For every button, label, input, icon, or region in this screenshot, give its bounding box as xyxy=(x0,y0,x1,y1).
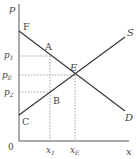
supply-demand-diagram: p x 0 D S F A E B C p1 pE p2 x1 xE xyxy=(0,0,137,159)
supply-label: S xyxy=(127,27,134,38)
origin-label: 0 xyxy=(8,142,14,152)
y-axis-label: p xyxy=(9,3,16,14)
point-c-label: C xyxy=(22,116,29,127)
supply-curve xyxy=(19,37,125,115)
price-pe-label: pE xyxy=(2,70,13,81)
point-f-label: F xyxy=(23,21,30,32)
price-p2-label: p2 xyxy=(4,87,14,98)
point-e-label: E xyxy=(69,62,78,73)
point-a-label: A xyxy=(44,41,52,52)
demand-label: D xyxy=(124,112,133,123)
guide-lines xyxy=(19,56,75,141)
price-p1-label: p1 xyxy=(4,50,14,61)
quantity-xe-label: xE xyxy=(70,145,80,156)
x-axis-label: x xyxy=(126,146,132,157)
point-b-label: B xyxy=(53,95,60,106)
quantity-x1-label: x1 xyxy=(46,145,55,156)
